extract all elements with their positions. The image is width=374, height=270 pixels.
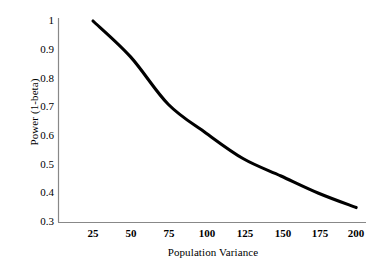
power-curve-chart: Power (1-beta) 1 0.9 0.8 0.7 0.6 0.5 0.4…: [0, 0, 374, 270]
plot-area: [0, 0, 374, 270]
power-curve-line: [93, 21, 356, 208]
